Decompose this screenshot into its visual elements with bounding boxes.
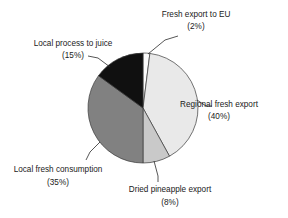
slice-label-name: Local fresh consumption [14, 165, 103, 174]
slice-label-name: Local process to juice [34, 39, 113, 48]
slice-label-percent: (40%) [208, 112, 230, 121]
pie-chart-figure: Fresh export to EU(2%)Regional fresh exp… [0, 0, 288, 218]
slice-label-name: Dried pineapple export [129, 185, 212, 194]
slice-label-percent: (35%) [47, 178, 69, 187]
slice-label-percent: (2%) [187, 22, 205, 31]
slice-label-percent: (8%) [161, 198, 179, 207]
slice-label-percent: (15%) [62, 51, 84, 60]
slice-label-name: Fresh export to EU [162, 10, 231, 19]
pie-chart-canvas: Fresh export to EU(2%)Regional fresh exp… [0, 0, 288, 218]
slice-label-name: Regional fresh export [180, 100, 259, 109]
